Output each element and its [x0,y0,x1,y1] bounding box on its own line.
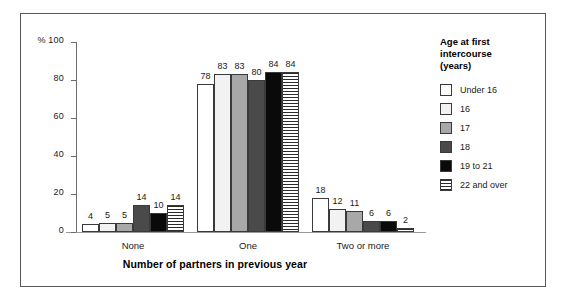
legend-item-label: 18 [460,142,470,152]
chart-figure: 020406080% 100 4551410147883838084841812… [0,0,564,302]
legend-item-label: 22 and over [460,180,508,190]
x-axis-line [66,232,426,233]
y-tick-label: 80 [54,73,64,83]
bar [150,213,167,232]
y-tick-label: % 100 [37,35,64,45]
bar [397,228,414,232]
category-label: None [83,240,183,251]
x-axis-title: Number of partners in previous year [0,258,430,270]
bar [231,74,248,232]
legend-swatch-icon [440,122,452,134]
legend-swatch-icon [440,141,452,153]
bar [116,223,133,233]
y-tick-label: 40 [54,149,64,159]
bar [214,74,231,232]
bar-value-label: 84 [278,59,303,69]
bar [82,224,99,232]
legend: Age at first intercourse (years) Under 1… [440,36,545,194]
bar-value-label: 18 [308,185,333,195]
legend-item: 19 to 21 [440,156,545,175]
legend-item: 16 [440,99,545,118]
y-tick-label: 60 [54,111,64,121]
legend-swatch-icon [440,103,452,115]
bar [197,84,214,232]
legend-item: 22 and over [440,175,545,194]
legend-item: Under 16 [440,80,545,99]
bar-value-label: 2 [393,215,418,225]
category-label: One [198,240,298,251]
legend-swatch-icon [440,160,452,172]
bar [363,221,380,232]
bar [167,205,184,232]
category-label: Two or more [313,240,413,251]
legend-swatch-icon [440,179,452,191]
legend-item: 17 [440,118,545,137]
plot-area: 455141014788383808484181211662 [76,42,406,232]
legend-title: Age at first intercourse (years) [440,36,545,72]
y-tick-label: 20 [54,187,64,197]
legend-item-label: Under 16 [460,85,497,95]
legend-item-label: 16 [460,104,470,114]
y-tick-mark [71,232,76,233]
bar-value-label: 11 [342,198,367,208]
legend-items: Under 1616171819 to 2122 and over [440,80,545,194]
bar [265,72,282,232]
legend-item-label: 17 [460,123,470,133]
bar [99,223,116,233]
bar-value-label: 14 [163,192,188,202]
legend-swatch-icon [440,84,452,96]
bar [282,72,299,232]
legend-item-label: 19 to 21 [460,161,493,171]
legend-item: 18 [440,137,545,156]
bar [329,209,346,232]
y-tick-label: 0 [59,225,64,235]
bar [248,80,265,232]
